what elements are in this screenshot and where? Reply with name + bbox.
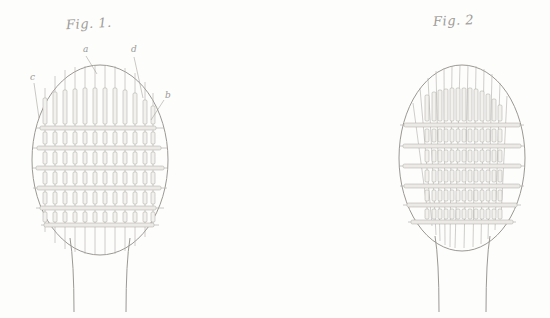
- figure-1-label-a: a: [83, 44, 88, 54]
- string-sleeves-vertical-1: [43, 88, 155, 222]
- figure-3-drawing: [365, 0, 550, 318]
- cross-strings-1: [32, 128, 168, 225]
- figure-1-label-c: c: [30, 72, 35, 82]
- figure-2: Fig. 2: [185, 0, 370, 318]
- figure-1: Fig. 1.: [0, 0, 200, 318]
- figure-3: Fig. 3: [365, 0, 550, 318]
- racket-handle-1: [70, 238, 130, 312]
- figure-1-label-d: d: [131, 44, 137, 54]
- patent-drawing-sheet: Fig. 1.: [0, 0, 550, 318]
- figure-1-label-b: b: [165, 90, 171, 100]
